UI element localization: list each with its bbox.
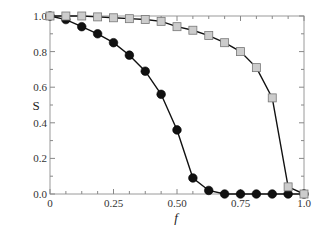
data-point-square — [300, 190, 308, 198]
plot-frame — [50, 16, 304, 194]
data-point-circle — [220, 190, 229, 199]
y-tick-label: 0.2 — [33, 152, 47, 164]
series-line — [50, 16, 304, 194]
data-point-circle — [236, 190, 245, 199]
x-axis-label: f — [174, 210, 180, 225]
data-point-circle — [252, 190, 261, 199]
data-point-square — [268, 94, 276, 102]
data-point-circle — [93, 30, 102, 39]
data-point-circle — [189, 174, 198, 183]
y-tick-label: 0.6 — [33, 81, 47, 93]
data-point-circle — [173, 126, 182, 135]
y-tick-label: 1.0 — [33, 10, 47, 22]
data-point-circle — [204, 186, 213, 195]
data-point-square — [157, 17, 165, 25]
x-tick-label: 0.50 — [167, 197, 187, 209]
series-markers — [46, 12, 309, 199]
data-point-circle — [157, 90, 166, 99]
x-tick-label: 1.0 — [297, 197, 311, 209]
data-point-square — [110, 14, 118, 22]
data-point-circle — [125, 51, 134, 60]
y-tick-label: 0.4 — [33, 117, 47, 129]
plot-area-border — [50, 16, 304, 194]
data-point-square — [221, 39, 229, 47]
data-point-square — [189, 26, 197, 34]
data-point-circle — [77, 22, 86, 31]
data-point-square — [173, 23, 181, 31]
data-point-square — [78, 12, 86, 20]
y-tick-label: 0.0 — [33, 188, 47, 200]
axis-ticks — [50, 16, 304, 194]
y-axis-label: S — [32, 98, 39, 113]
data-point-square — [205, 32, 213, 40]
data-point-circle — [141, 67, 150, 76]
data-point-square — [284, 183, 292, 191]
data-point-square — [125, 15, 133, 23]
series-lines — [50, 16, 304, 194]
y-tick-label: 0.8 — [33, 46, 47, 58]
data-point-square — [94, 13, 102, 21]
series-line — [50, 16, 304, 194]
x-tick-label: 0.75 — [231, 197, 251, 209]
data-point-square — [252, 64, 260, 72]
data-point-circle — [268, 190, 277, 199]
data-point-square — [237, 48, 245, 56]
x-tick-label: 0.25 — [104, 197, 124, 209]
chart: 00.250.500.751.00.00.20.40.60.81.0 f S — [0, 0, 324, 236]
data-point-circle — [109, 38, 118, 47]
data-point-square — [46, 12, 54, 20]
data-point-square — [141, 16, 149, 24]
x-tick-label: 0 — [47, 197, 53, 209]
tick-labels: 00.250.500.751.00.00.20.40.60.81.0 — [33, 10, 311, 209]
data-point-square — [62, 12, 70, 20]
